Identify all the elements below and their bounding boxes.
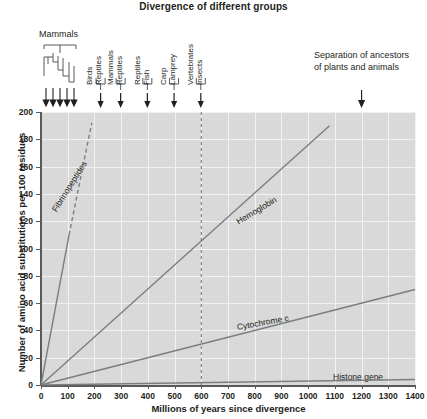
group-label-fish: Fish [142,70,151,85]
y-axis-tick [36,167,41,168]
divergence-arrow-head-reptiles-fish [144,101,150,108]
y-axis-tick [36,139,41,140]
y-axis-tick [36,249,41,250]
x-axis-tick-label: 500 [167,391,181,401]
divergence-arrow-head-birds-reptiles [98,101,104,108]
x-axis-tick-label: 800 [248,391,262,401]
horizontal-gridline [41,303,415,304]
horizontal-gridline [41,276,415,277]
y-axis-tick-label: 40 [3,325,33,335]
horizontal-gridline [41,194,415,195]
y-axis-tick [36,194,41,195]
divergence-arrow-head-vertebrates-insects [198,101,204,108]
series-label-histone-gene: Histone gene [333,372,383,382]
y-axis-tick-label: 160 [3,162,33,172]
group-label-reptiles-2: Reptiles [115,56,124,85]
x-axis-tick [41,385,42,389]
x-axis-tick [281,385,282,389]
group-label-vertebrates: Vertebrates [186,44,195,85]
mammals-caption: Mammals [39,29,78,39]
y-axis-tick-label: 80 [3,271,33,281]
horizontal-gridline [41,221,415,222]
x-axis-tick-label: 100 [61,391,75,401]
y-axis-tick-label: 0 [3,380,33,390]
x-axis-tick-label: 1300 [379,391,398,401]
y-axis-tick [36,303,41,304]
y-axis-tick-label: 60 [3,298,33,308]
horizontal-gridline [41,330,415,331]
x-axis-tick-label: 900 [274,391,288,401]
mammals-tip-arrows [43,88,77,106]
x-axis-tick-label: 300 [114,391,128,401]
x-axis-tick [68,385,69,389]
group-label-mammals: Mammals [106,50,115,85]
horizontal-gridline [41,139,415,140]
x-axis-tick-label: 600 [194,391,208,401]
y-axis-tick [36,276,41,277]
x-axis-tick [362,385,363,389]
x-axis-tick [255,385,256,389]
x-axis-tick-label: 700 [221,391,235,401]
group-label-reptiles-3: Reptiles [133,56,142,85]
y-axis-tick-label: 200 [3,107,33,117]
group-label-insects: Insects [195,60,204,85]
group-label-reptiles-1: Reptiles [94,56,103,85]
plot-area [41,112,415,385]
y-axis-tick-label: 140 [3,189,33,199]
x-axis-tick [121,385,122,389]
x-axis-tick-label: 1200 [352,391,371,401]
chart-title: Divergence of different groups [0,1,427,12]
horizontal-gridline [41,167,415,168]
x-axis-tick [175,385,176,389]
separation-arrow-head [358,100,365,108]
horizontal-gridline [41,358,415,359]
y-axis-tick [36,385,41,386]
y-axis-tick-label: 120 [3,216,33,226]
x-axis-tick [94,385,95,389]
group-label-lamprey: Lamprey [168,54,177,85]
group-label-birds: Birds [85,67,94,85]
group-label-carp: Carp [159,68,168,85]
x-axis-tick [335,385,336,389]
x-axis-tick-label: 0 [39,391,44,401]
mammals-cladogram [44,45,76,82]
divergence-arrow-head-carp-lamprey [171,101,177,108]
x-axis-tick-label: 1000 [299,391,318,401]
x-axis-tick [388,385,389,389]
y-axis-tick [36,358,41,359]
x-axis-tick [415,385,416,389]
divergence-arrow-head-mammals-reptiles [118,101,124,108]
horizontal-gridline [41,249,415,250]
x-axis-tick-label: 200 [87,391,101,401]
figure-root: Divergence of different groups Millions … [0,0,427,419]
y-axis-tick-label: 100 [3,244,33,254]
x-axis-tick [201,385,202,389]
x-axis-tick-label: 1400 [406,391,425,401]
x-axis-tick-label: 1100 [326,391,344,401]
y-axis-tick-label: 20 [3,353,33,363]
y-axis-tick [36,221,41,222]
x-axis-tick [228,385,229,389]
vertical-gridline [415,112,416,385]
y-axis-tick-label: 180 [3,134,33,144]
y-axis-tick [36,112,41,113]
x-axis-title: Millions of years since divergence [41,403,416,414]
horizontal-gridline [41,112,415,113]
y-axis-tick [36,330,41,331]
separation-caption: Separation of ancestors of plants and an… [314,50,418,73]
x-axis-tick [148,385,149,389]
x-axis-tick [308,385,309,389]
x-axis-tick-label: 400 [141,391,155,401]
